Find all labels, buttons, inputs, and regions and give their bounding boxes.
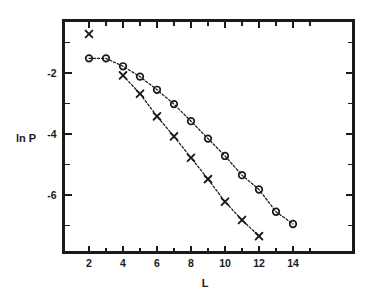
x-tick-label: 2 — [86, 257, 92, 269]
y-tick-label: -6 — [47, 189, 56, 201]
y-tick-label: -4 — [47, 128, 56, 140]
x-tick-label: 4 — [120, 257, 126, 269]
x-axis-label: L — [202, 277, 209, 289]
figure-container: 2468101214 -2-4-6 L ln P — [0, 0, 377, 300]
x-tick-label: 12 — [253, 257, 265, 269]
y-tick-label: -2 — [47, 67, 56, 79]
x-tick-label: 14 — [287, 257, 299, 269]
scatter-plot: 2468101214 -2-4-6 L ln P — [0, 0, 377, 300]
x-tick-label: 6 — [154, 257, 160, 269]
x-tick-label: 8 — [188, 257, 194, 269]
plot-background — [0, 0, 377, 300]
y-axis-label: ln P — [16, 132, 36, 144]
x-tick-label: 10 — [219, 257, 231, 269]
